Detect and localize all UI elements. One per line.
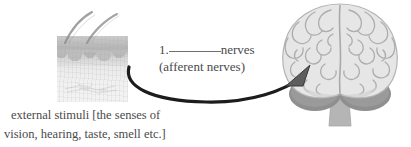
question-number: 1. [159, 42, 169, 57]
nerve-term: nerves [221, 42, 255, 57]
answer-blank[interactable] [169, 51, 221, 52]
stimuli-caption-line-2: vision, hearing, taste, smell etc.] [4, 125, 204, 144]
diagram-canvas: 1.nerves (afferent nerves) external stim… [0, 0, 411, 147]
skin-cross-section-image [57, 36, 128, 102]
skin-texture-overlay [57, 36, 128, 102]
nerve-answer-line: (afferent nerves) [159, 59, 245, 75]
stimuli-caption: external stimuli [the senses of vision, … [4, 106, 204, 144]
arrow-head [286, 65, 310, 86]
hair-shafts-icon [57, 10, 135, 44]
stimuli-caption-line-1: external stimuli [the senses of [4, 106, 204, 125]
nerve-label-line: 1.nerves [159, 42, 255, 58]
